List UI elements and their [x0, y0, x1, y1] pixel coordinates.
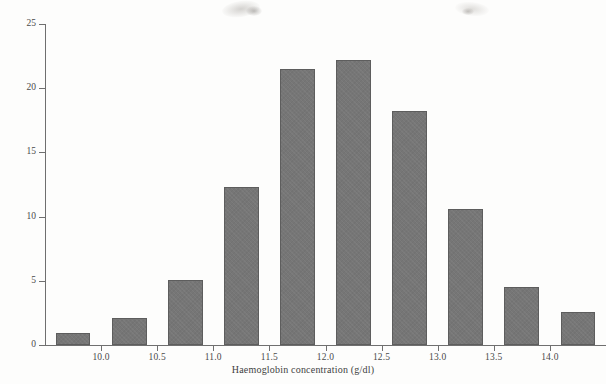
x-axis-tick — [550, 346, 551, 351]
x-axis-tick — [213, 346, 214, 351]
x-axis-tick-label: 12.5 — [362, 352, 402, 362]
histogram-bar — [112, 318, 147, 345]
x-axis-tick — [326, 346, 327, 351]
x-axis-tick — [494, 346, 495, 351]
x-axis-tick-label: 10.0 — [81, 352, 121, 362]
histogram-bar — [448, 209, 483, 345]
y-axis-tick-label: 0 — [0, 339, 36, 349]
y-axis-tick-label: 20 — [0, 82, 36, 92]
y-axis-tick-label: 25 — [0, 18, 36, 28]
scan-smudge-icon — [221, 0, 261, 20]
histogram-bar — [56, 333, 91, 345]
y-axis-tick — [39, 345, 45, 346]
histogram-bar — [392, 111, 427, 345]
x-axis-tick-label: 10.5 — [137, 352, 177, 362]
histogram-bar — [224, 187, 259, 345]
histogram-bar — [280, 69, 315, 345]
x-axis-tick-label: 11.0 — [193, 352, 233, 362]
histogram-bar — [336, 60, 371, 345]
x-axis-tick-label: 13.0 — [418, 352, 458, 362]
x-axis-tick-label: 11.5 — [249, 352, 289, 362]
x-axis-tick — [101, 346, 102, 351]
x-axis-tick — [269, 346, 270, 351]
scan-smudge-icon — [454, 0, 489, 17]
bars-layer — [45, 24, 606, 345]
x-axis-tick-label: 13.5 — [474, 352, 514, 362]
x-axis-title: Haemoglobin concentration (g/dl) — [0, 364, 606, 375]
y-axis-tick-label: 15 — [0, 146, 36, 156]
x-axis-tick-label: 14.0 — [530, 352, 570, 362]
histogram-bar — [168, 280, 203, 345]
histogram-bar — [561, 312, 596, 345]
x-axis-tick — [382, 346, 383, 351]
x-axis-tick-label: 12.0 — [306, 352, 346, 362]
histogram-bar — [504, 287, 539, 345]
y-axis-tick-label: 5 — [0, 275, 36, 285]
scan-smudge-icon — [246, 6, 262, 16]
x-axis-tick — [157, 346, 158, 351]
y-axis-tick-label: 10 — [0, 211, 36, 221]
histogram-figure: 0510152025 10.010.511.011.512.012.513.01… — [0, 0, 606, 384]
x-axis-tick — [438, 346, 439, 351]
scan-smudge-icon — [462, 8, 474, 15]
